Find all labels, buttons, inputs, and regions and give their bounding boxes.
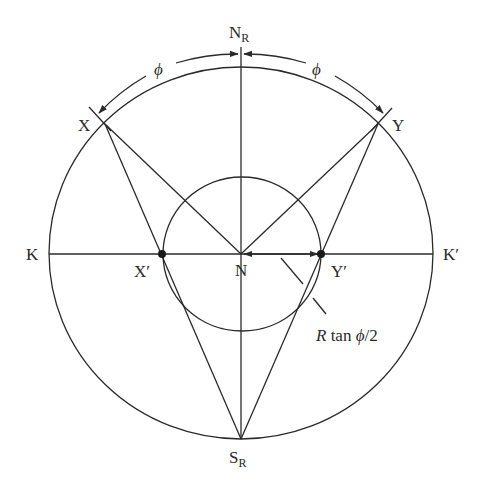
label-south-pole: SR [229, 448, 246, 470]
angle-arc-left-b [176, 54, 238, 63]
distance-leader-b [313, 298, 326, 314]
label-angle-right: ϕ [312, 60, 321, 79]
angle-arc-left-a [99, 76, 146, 113]
label-y: Y [392, 116, 404, 135]
point-y-prime [317, 250, 325, 258]
construction-diagram: NR SR K K′ X Y X′ Y′ N ϕ ϕ R tan ϕ/2 [0, 0, 482, 488]
label-k: K [26, 245, 39, 264]
label-angle-left: ϕ [154, 60, 163, 79]
label-north-pole: NR [229, 23, 249, 45]
label-center: N [235, 261, 247, 280]
line-x-to-sr [105, 124, 241, 439]
line-x-to-n [105, 124, 241, 254]
label-distance: R tan ϕ/2 [315, 326, 378, 345]
label-x-prime: X′ [134, 262, 150, 281]
line-y-to-sr [241, 124, 378, 439]
label-k-prime: K′ [443, 245, 459, 264]
distance-leader-a [281, 258, 303, 284]
point-x-prime [158, 250, 166, 258]
label-y-prime: Y′ [331, 262, 347, 281]
line-y-to-n [241, 124, 378, 254]
angle-arc-right-a [244, 54, 306, 63]
label-x: X [78, 116, 90, 135]
